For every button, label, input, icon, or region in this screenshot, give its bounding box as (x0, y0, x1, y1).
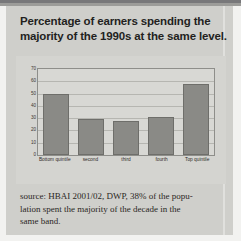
x-axis-tick-label: Bottom quintile (38, 157, 72, 163)
chart-plot-area: 706050403020100 (37, 68, 215, 156)
y-axis-tick-label: 0 (33, 153, 36, 158)
x-axis-tick-label: second (73, 157, 107, 163)
y-axis-tick-label: 50 (31, 91, 36, 96)
bar-chart-figure: 706050403020100 Bottom quintilesecondthi… (16, 56, 226, 184)
chart-bar (78, 119, 104, 155)
chart-x-axis-labels: Bottom quintilesecondthirdfourthTop quin… (37, 157, 215, 179)
y-axis-tick-label: 10 (31, 140, 36, 145)
y-axis-tick-label: 60 (31, 79, 36, 84)
page-body: Percentage of earners spending the major… (6, 6, 233, 235)
chart-bar (183, 84, 209, 155)
chart-bar (113, 121, 139, 155)
x-axis-tick-label: third (109, 157, 143, 163)
chart-bar (43, 94, 69, 155)
chart-bars (38, 69, 214, 155)
y-axis-tick-label: 30 (31, 116, 36, 121)
source-caption: source: HBAI 2001/02, DWP, 38% of the po… (20, 190, 222, 228)
source-caption-line-1: source: HBAI 2001/02, DWP, 38% of the po… (20, 190, 222, 203)
page-title: Percentage of earners spending the major… (20, 14, 225, 44)
scanned-page: Percentage of earners spending the major… (0, 0, 241, 241)
x-axis-tick-label: fourth (145, 157, 179, 163)
x-axis-tick-label: Top quintile (180, 157, 214, 163)
page-title-line-2: majority of the 1990s at the same level. (20, 29, 225, 44)
source-caption-line-3: same band. (20, 215, 222, 228)
chart-bar (148, 117, 174, 155)
y-axis-tick-label: 40 (31, 104, 36, 109)
scan-edge-band-dark (0, 0, 241, 3)
page-title-line-1: Percentage of earners spending the (20, 14, 225, 29)
y-axis-tick-label: 20 (31, 128, 36, 133)
source-caption-line-2: lation spent the majority of the decade … (20, 203, 222, 216)
y-axis-tick-label: 70 (31, 67, 36, 72)
